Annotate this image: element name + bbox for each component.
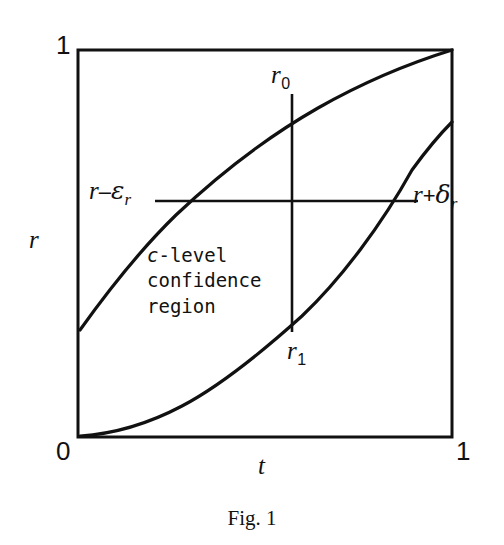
annotation-level-variable: c — [147, 244, 158, 266]
delta-glyph: δ — [436, 180, 451, 209]
left-bound-label: r–εr — [89, 178, 131, 208]
annotation-line-3: region — [147, 294, 261, 319]
figure-caption: Fig. 1 — [0, 506, 504, 531]
right-bound-operator: + — [423, 183, 436, 208]
left-bound-subscript: r — [124, 190, 131, 209]
upper-curve-label: r0 — [271, 62, 290, 92]
left-bound-operator: – — [99, 179, 111, 204]
upper-curve-label-base: r — [271, 61, 281, 88]
right-bound-base: r — [413, 181, 423, 208]
annotation-line-1: c-level — [147, 243, 261, 268]
right-bound-label: r+δr — [413, 182, 457, 212]
y-axis-max-tick: 1 — [56, 32, 70, 58]
origin-tick: 0 — [56, 438, 70, 464]
right-bound-subscript: r — [451, 194, 458, 213]
left-bound-base: r — [89, 177, 99, 204]
upper-boundary-curve — [80, 50, 452, 330]
plot-frame — [78, 50, 452, 437]
figure-container: 1 0 1 r t r0 r1 r–εr r+δr c-level confid… — [0, 0, 504, 545]
annotation-level-suffix: -level — [158, 244, 227, 266]
lower-curve-label-base: r — [287, 337, 297, 364]
x-axis-max-tick: 1 — [456, 438, 470, 464]
lower-curve-label-subscript: 1 — [297, 351, 306, 368]
y-axis-label: r — [29, 227, 39, 252]
annotation-line-2: confidence — [147, 268, 261, 293]
confidence-region-annotation: c-level confidence region — [147, 243, 261, 319]
lower-boundary-curve — [80, 122, 452, 436]
upper-curve-label-subscript: 0 — [281, 75, 290, 92]
epsilon-glyph: ε — [111, 176, 124, 205]
x-axis-label: t — [258, 453, 265, 478]
lower-curve-label: r1 — [287, 338, 306, 368]
